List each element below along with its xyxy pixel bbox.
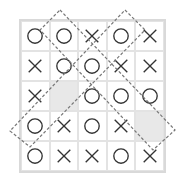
cross-mark-icon xyxy=(112,117,130,135)
circle-mark-icon xyxy=(83,117,101,135)
cross-mark-icon xyxy=(112,57,130,75)
circle-mark-icon xyxy=(55,57,73,75)
board-cell-r1-c4[interactable] xyxy=(107,21,136,51)
board-cell-r5-c2[interactable] xyxy=(50,141,79,171)
board-cell-r2-c2[interactable] xyxy=(50,51,79,81)
board-cell-r2-c3[interactable] xyxy=(78,51,107,81)
board-cell-r1-c1[interactable] xyxy=(21,21,50,51)
board-cell-r3-c3[interactable] xyxy=(78,81,107,111)
circle-mark-icon xyxy=(55,27,73,45)
board-cell-r4-c3[interactable] xyxy=(78,111,107,141)
board-cell-r1-c2[interactable] xyxy=(50,21,79,51)
board-cell-r5-c4[interactable] xyxy=(107,141,136,171)
board-cell-r3-c4[interactable] xyxy=(107,81,136,111)
circle-mark-icon xyxy=(26,117,44,135)
board-cell-r3-c1[interactable] xyxy=(21,81,50,111)
board-cell-r4-c2[interactable] xyxy=(50,111,79,141)
cross-mark-icon xyxy=(141,27,159,45)
board-cell-r3-c2[interactable] xyxy=(50,81,79,111)
board-cell-r5-c3[interactable] xyxy=(78,141,107,171)
cross-mark-icon xyxy=(26,57,44,75)
board-cell-r2-c5[interactable] xyxy=(135,51,164,81)
circle-mark-icon xyxy=(83,87,101,105)
cross-mark-icon xyxy=(55,147,73,165)
cross-mark-icon xyxy=(26,87,44,105)
board-cell-r2-c4[interactable] xyxy=(107,51,136,81)
circle-mark-icon xyxy=(112,147,130,165)
board-cell-r4-c5[interactable] xyxy=(135,111,164,141)
cross-mark-icon xyxy=(83,147,101,165)
circle-mark-icon xyxy=(112,27,130,45)
game-board xyxy=(19,19,166,173)
board-cell-r2-c1[interactable] xyxy=(21,51,50,81)
circle-mark-icon xyxy=(26,27,44,45)
circle-mark-icon xyxy=(112,87,130,105)
board-cell-r4-c1[interactable] xyxy=(21,111,50,141)
cross-mark-icon xyxy=(83,27,101,45)
board-cell-r3-c5[interactable] xyxy=(135,81,164,111)
circle-mark-icon xyxy=(83,57,101,75)
cross-mark-icon xyxy=(141,57,159,75)
board-cell-r1-c3[interactable] xyxy=(78,21,107,51)
circle-mark-icon xyxy=(26,147,44,165)
board-cell-r5-c1[interactable] xyxy=(21,141,50,171)
cross-mark-icon xyxy=(141,147,159,165)
cross-mark-icon xyxy=(55,117,73,135)
board-cell-r5-c5[interactable] xyxy=(135,141,164,171)
board-cell-r1-c5[interactable] xyxy=(135,21,164,51)
circle-mark-icon xyxy=(141,87,159,105)
board-cell-r4-c4[interactable] xyxy=(107,111,136,141)
